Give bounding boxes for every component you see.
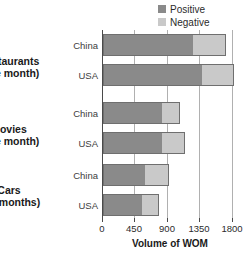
bar-cars-china bbox=[103, 164, 169, 186]
bar-segment-positive bbox=[103, 132, 162, 154]
legend-swatch-negative bbox=[158, 18, 166, 26]
legend-item-positive: Positive bbox=[158, 3, 248, 15]
legend-label-negative: Negative bbox=[170, 17, 209, 28]
chart-legend: Positive Negative bbox=[158, 3, 248, 29]
tick-mark-1350 bbox=[199, 218, 200, 222]
bar-segment-positive bbox=[103, 64, 202, 86]
bar-segment-negative bbox=[142, 194, 159, 216]
series-label-movies-china: China bbox=[52, 108, 98, 119]
group-name-cars: Cars bbox=[0, 184, 69, 196]
series-label-restaurants-china: China bbox=[52, 40, 98, 51]
gridline-450 bbox=[134, 30, 135, 218]
tick-mark-900 bbox=[167, 218, 168, 222]
gridline-1800 bbox=[232, 30, 233, 218]
bar-segment-negative bbox=[162, 102, 180, 124]
bar-movies-usa bbox=[103, 132, 185, 154]
bar-movies-china bbox=[103, 102, 180, 124]
legend-swatch-positive bbox=[158, 5, 166, 13]
bar-segment-positive bbox=[103, 164, 145, 186]
tick-mark-0 bbox=[102, 218, 103, 222]
bar-segment-positive bbox=[103, 34, 193, 56]
bar-cars-usa bbox=[103, 194, 159, 216]
bar-segment-positive bbox=[103, 102, 162, 124]
tick-label-1800: 1800 bbox=[212, 223, 250, 234]
bar-segment-positive bbox=[103, 194, 142, 216]
bar-segment-negative bbox=[145, 164, 169, 186]
bar-segment-negative bbox=[162, 132, 185, 154]
wom-volume-chart: Positive Negative Restaurants (one month… bbox=[0, 0, 250, 258]
group-name-movies: Movies bbox=[0, 123, 69, 135]
bar-restaurants-usa bbox=[103, 64, 234, 86]
x-axis-title: Volume of WOM bbox=[95, 238, 245, 249]
bar-segment-negative bbox=[202, 64, 234, 86]
tick-mark-1800 bbox=[232, 218, 233, 222]
tick-mark-450 bbox=[134, 218, 135, 222]
group-name-restaurants: Restaurants bbox=[0, 55, 69, 67]
series-label-cars-usa: USA bbox=[52, 200, 98, 211]
y-axis-line bbox=[102, 30, 103, 218]
series-label-restaurants-usa: USA bbox=[52, 70, 98, 81]
legend-label-positive: Positive bbox=[170, 4, 205, 15]
gridline-1350 bbox=[199, 30, 200, 218]
series-label-movies-usa: USA bbox=[52, 138, 98, 149]
legend-item-negative: Negative bbox=[158, 16, 248, 28]
bar-segment-negative bbox=[193, 34, 226, 56]
bar-restaurants-china bbox=[103, 34, 226, 56]
series-label-cars-china: China bbox=[52, 170, 98, 181]
gridline-900 bbox=[167, 30, 168, 218]
